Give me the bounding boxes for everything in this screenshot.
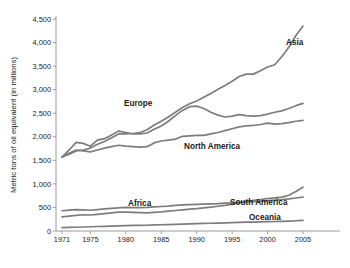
chart-container: Metric tons of oil equivalent (in millio… — [0, 0, 350, 268]
series-line-asia — [62, 26, 303, 157]
x-tick-label: 1971 — [54, 235, 70, 244]
x-tick-label: 1975 — [82, 235, 98, 244]
y-tick-label: 3,500 — [33, 62, 52, 71]
y-tick-label: 2,500 — [33, 109, 52, 118]
series-label-north-america: North America — [184, 142, 241, 151]
y-tick-label: 500 — [39, 203, 51, 212]
series-label-south-america: South America — [230, 198, 288, 207]
y-tick-label: 1,000 — [33, 180, 52, 189]
x-tick-label: 1985 — [153, 235, 169, 244]
series-label-africa: Africa — [128, 199, 152, 208]
y-tick-label: 4,500 — [33, 15, 52, 24]
x-tick-label: 1995 — [224, 235, 240, 244]
y-tick-label: 2,000 — [33, 132, 52, 141]
x-tick-label: 1980 — [118, 235, 134, 244]
x-axis-tick-labels: 19711975198019851990199520002005 — [54, 231, 311, 244]
y-tick-label: 1,500 — [33, 156, 52, 165]
y-tick-label: 0 — [47, 227, 51, 236]
x-tick-label: 1990 — [188, 235, 204, 244]
y-tick-label: 3,000 — [33, 85, 52, 94]
y-axis-title: Metric tons of oil equivalent (in millio… — [9, 57, 18, 193]
x-tick-label: 2000 — [259, 235, 275, 244]
line-chart: Metric tons of oil equivalent (in millio… — [0, 0, 350, 268]
y-axis-tick-labels: 05001,0001,5002,0002,5003,0003,5004,0004… — [33, 15, 57, 236]
series-line-north-america — [62, 120, 303, 157]
series-label-oceania: Oceania — [249, 213, 281, 222]
y-axis-title-text: Metric tons of oil equivalent (in millio… — [9, 57, 18, 193]
series-label-europe: Europe — [124, 99, 153, 108]
series-label-asia: Asia — [286, 38, 304, 47]
x-tick-label: 2005 — [295, 235, 311, 244]
y-tick-label: 4,000 — [33, 38, 52, 47]
